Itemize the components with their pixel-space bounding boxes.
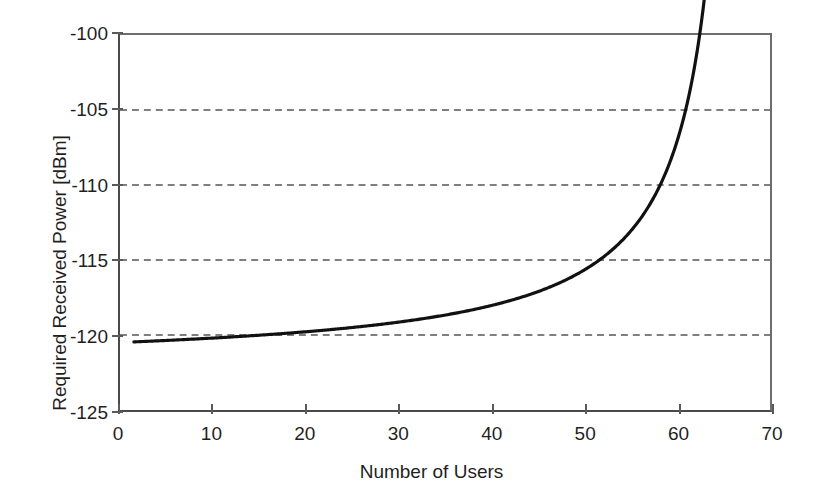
y-tick-mark-neg105 [112, 108, 123, 110]
plot-area [118, 33, 772, 412]
x-tick-label-10: 10 [201, 424, 222, 443]
x-tick-mark-20 [305, 404, 307, 414]
x-tick-label-60: 60 [668, 424, 689, 443]
x-tick-label-50: 50 [575, 424, 596, 443]
x-tick-mark-10 [211, 404, 213, 414]
y-axis-title: Required Received Power [dBm] [40, 0, 80, 498]
chart-figure: -100-105-110-115-120-125 Number of Users… [0, 0, 823, 498]
data-curve-layer [120, 35, 770, 410]
x-tick-label-70: 70 [761, 424, 782, 443]
y-tick-mark-neg120 [112, 335, 123, 337]
x-axis-title-text: Number of Users [360, 461, 504, 483]
x-tick-mark-0 [118, 404, 120, 414]
x-tick-label-0: 0 [113, 424, 124, 443]
x-tick-label-20: 20 [294, 424, 315, 443]
x-tick-mark-70 [772, 404, 774, 414]
x-axis-title: Number of Users [0, 461, 823, 483]
y-tick-mark-neg100 [112, 32, 123, 34]
x-tick-mark-60 [679, 404, 681, 414]
x-tick-mark-50 [585, 404, 587, 414]
y-tick-mark-neg115 [112, 259, 123, 261]
x-tick-label-40: 40 [481, 424, 502, 443]
y-tick-mark-neg110 [112, 184, 123, 186]
y-axis-title-text: Required Received Power [dBm] [49, 135, 71, 411]
x-tick-mark-30 [398, 404, 400, 414]
series-line-required-received-power [134, 0, 738, 342]
x-tick-mark-40 [492, 404, 494, 414]
x-tick-label-30: 30 [388, 424, 409, 443]
